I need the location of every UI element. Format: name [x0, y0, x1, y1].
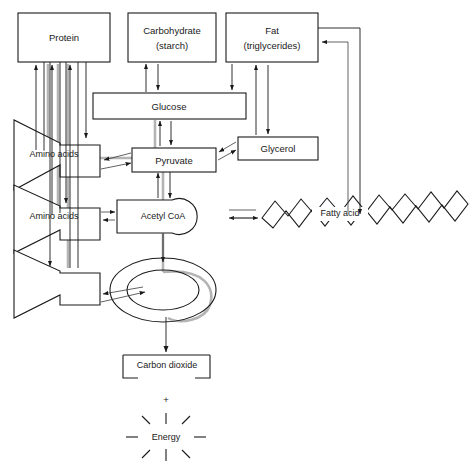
- node-carbohydrate: Carbohydrate (starch): [128, 13, 216, 62]
- node-pyruvate: Pyruvate: [132, 148, 216, 172]
- fat-label-line1: Fat: [265, 25, 279, 36]
- metabolic-pathway-diagram: Protein Carbohydrate (starch) Fat (trigl…: [0, 0, 476, 468]
- node-acetyl-coa: Acetyl CoA: [117, 199, 197, 235]
- fatty-acid-label: Fatty acid: [320, 208, 359, 218]
- diagram-canvas: Protein Carbohydrate (starch) Fat (trigl…: [0, 0, 476, 468]
- glycerol-label: Glycerol: [261, 143, 296, 154]
- node-amino-acids-3: [14, 250, 100, 318]
- carbohydrate-label-line1: Carbohydrate: [143, 25, 201, 36]
- carbon-dioxide-label: Carbon dioxide: [137, 360, 198, 370]
- pyruvate-label: Pyruvate: [155, 155, 193, 166]
- plus-sign: +: [163, 394, 169, 405]
- protein-label: Protein: [49, 32, 79, 43]
- node-energy: Energy: [126, 413, 206, 461]
- node-glucose: Glucose: [93, 93, 246, 119]
- glucose-label: Glucose: [152, 101, 187, 112]
- acetyl-coa-label: Acetyl CoA: [141, 211, 186, 221]
- energy-label: Energy: [152, 432, 181, 442]
- amino-acids-2-label: Amino acids: [29, 211, 79, 221]
- node-carbon-dioxide: Carbon dioxide: [123, 355, 210, 378]
- node-glycerol: Glycerol: [238, 137, 318, 160]
- node-protein: Protein: [18, 13, 110, 62]
- amino-acids-1-label: Amino acids: [29, 149, 79, 159]
- node-fatty-acid: Fatty acid: [262, 191, 468, 228]
- fat-label-line2: (triglycerides): [243, 40, 300, 51]
- carbohydrate-label-line2: (starch): [156, 40, 188, 51]
- node-fat: Fat (triglycerides): [226, 13, 318, 62]
